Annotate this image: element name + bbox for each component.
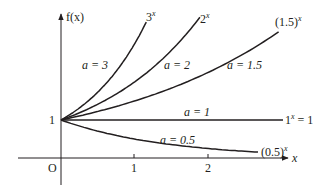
exponent: x [298,14,302,23]
x-axis-label: x [292,152,297,164]
param-label-a15: a = 1.5 [227,59,262,71]
curve-label-1-5x: (1.5)x [275,16,302,28]
param-label-a1: a = 1 [184,106,210,118]
param-label-a15-text: a = 1.5 [227,58,262,72]
curve-label-0-5x-base: (0.5) [261,145,284,159]
curve-label-0-5x: (0.5)x [261,146,288,158]
curve-label-1-5x-base: (1.5) [275,15,298,29]
curve-label-1x-eq: = 1 [295,113,314,127]
exponent: x [152,9,156,18]
exponent: x [291,112,295,121]
param-label-a2-text: a = 2 [164,58,190,72]
y-tick-label-1: 1 [49,114,55,126]
curve-label-1x: 1x = 1 [285,114,313,126]
y-axis-label: f(x) [66,11,84,23]
origin-label: O [48,162,57,174]
exponent: x [284,144,288,153]
param-label-a3: a = 3 [82,59,108,71]
param-label-a3-text: a = 3 [82,58,108,72]
x-axis-label-text: x [292,151,297,165]
param-label-a05-text: a = 0.5 [160,133,195,147]
curve-label-3x: 3x [146,11,156,23]
x-tick-label-2: 2 [205,162,211,174]
exponent: x [206,11,210,20]
x-tick-label-1: 1 [131,162,137,174]
param-label-a1-text: a = 1 [184,105,210,119]
param-label-a05: a = 0.5 [160,134,195,146]
curve-label-2x: 2x [200,13,210,25]
param-label-a2: a = 2 [164,59,190,71]
